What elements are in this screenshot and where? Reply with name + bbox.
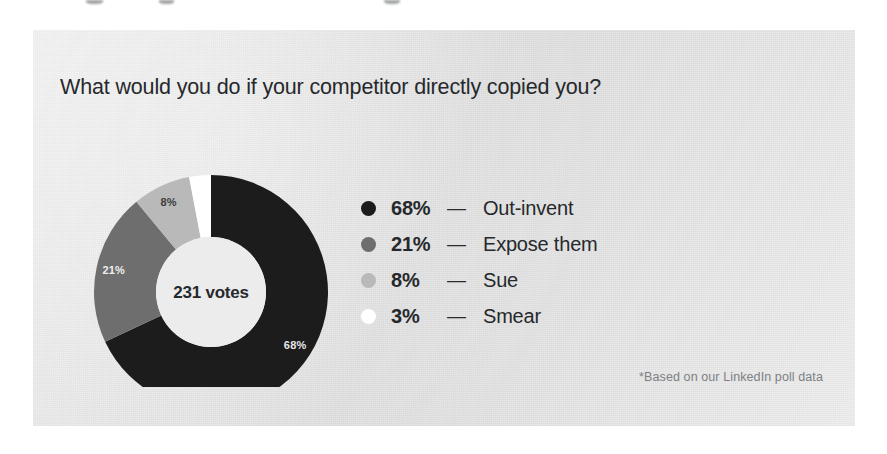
legend-percent: 68% [391, 197, 447, 220]
legend-swatch-icon [361, 309, 376, 324]
donut-arc-label: 21% [102, 264, 125, 276]
legend-label: Expose them [483, 233, 598, 256]
slide-canvas: What would you do if your competitor dir… [0, 0, 887, 454]
legend-swatch-icon [361, 201, 376, 216]
donut-chart: 231 votes 68%21%8% [61, 117, 361, 387]
legend-row-smear[interactable]: 3% — Smear [361, 298, 598, 334]
cropped-headline-remnant [86, 0, 103, 4]
legend-percent: 8% [391, 269, 447, 292]
legend-row-sue[interactable]: 8% — Sue [361, 262, 598, 298]
donut-arc-label: 8% [160, 196, 176, 208]
cropped-headline-remnant [159, 0, 174, 4]
legend-percent: 3% [391, 305, 447, 328]
legend-swatch-icon [361, 237, 376, 252]
legend-label: Smear [483, 305, 541, 328]
chart-legend: 68% — Out-invent 21% — Expose them 8% — … [361, 190, 598, 334]
legend-label: Out-invent [483, 197, 573, 220]
legend-row-out-invent[interactable]: 68% — Out-invent [361, 190, 598, 226]
legend-label: Sue [483, 269, 518, 292]
legend-dash-separator: — [447, 233, 483, 255]
poll-result-card: What would you do if your competitor dir… [33, 30, 855, 426]
page-title: What would you do if your competitor dir… [60, 73, 760, 101]
source-footnote: *Based on our LinkedIn poll data [639, 370, 823, 384]
donut-center-label: 231 votes [173, 283, 249, 302]
legend-percent: 21% [391, 233, 447, 256]
legend-dash-separator: — [447, 305, 483, 327]
legend-swatch-icon [361, 273, 376, 288]
donut-arc-label: 68% [284, 339, 307, 351]
legend-dash-separator: — [447, 197, 483, 219]
legend-row-expose-them[interactable]: 21% — Expose them [361, 226, 598, 262]
legend-dash-separator: — [447, 269, 483, 291]
donut-chart-svg: 231 votes 68%21%8% [61, 117, 361, 387]
cropped-headline-remnant [384, 0, 400, 4]
